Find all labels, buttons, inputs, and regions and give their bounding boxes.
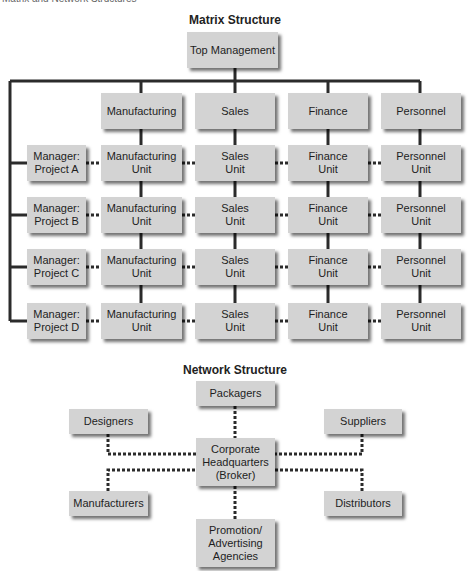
unit-sales: Sales Unit	[195, 303, 275, 339]
dept-label: Manufacturing	[107, 105, 177, 118]
unit-label: Personnel Unit	[396, 308, 446, 334]
node-label: Suppliers	[340, 415, 386, 428]
dept-label: Sales	[221, 105, 249, 118]
node-designers: Designers	[69, 409, 148, 434]
dept-label: Personnel	[396, 105, 446, 118]
matrix-title: Matrix Structure	[185, 13, 285, 27]
manager-label: Manager: Project B	[33, 202, 79, 228]
unit-sales: Sales Unit	[195, 249, 275, 285]
unit-label: Manufacturing Unit	[107, 150, 177, 176]
manager-project-a: Manager: Project A	[27, 145, 86, 181]
unit-label: Sales Unit	[221, 308, 249, 334]
unit-label: Personnel Unit	[396, 202, 446, 228]
manager-label: Manager: Project C	[33, 254, 79, 280]
node-label: Promotion/ Advertising Agencies	[208, 524, 262, 563]
unit-label: Personnel Unit	[396, 150, 446, 176]
dept-label: Finance	[308, 105, 347, 118]
dept-finance: Finance	[288, 93, 368, 129]
top-management-label: Top Management	[190, 44, 275, 57]
unit-manufacturing: Manufacturing Unit	[101, 145, 182, 181]
unit-manufacturing: Manufacturing Unit	[101, 249, 182, 285]
manager-label: Manager: Project D	[33, 308, 79, 334]
node-promotion-advertising: Promotion/ Advertising Agencies	[196, 519, 275, 567]
unit-finance: Finance Unit	[288, 303, 368, 339]
manager-project-d: Manager: Project D	[27, 303, 86, 339]
unit-label: Finance Unit	[308, 254, 347, 280]
dept-sales: Sales	[195, 93, 275, 129]
unit-manufacturing: Manufacturing Unit	[101, 197, 182, 233]
node-distributors: Distributors	[324, 491, 402, 516]
unit-label: Manufacturing Unit	[107, 308, 177, 334]
unit-sales: Sales Unit	[195, 197, 275, 233]
manager-project-c: Manager: Project C	[27, 249, 86, 285]
node-label: Designers	[84, 415, 134, 428]
top-management-box: Top Management	[187, 32, 278, 68]
unit-finance: Finance Unit	[288, 145, 368, 181]
network-title: Network Structure	[180, 363, 290, 377]
unit-finance: Finance Unit	[288, 197, 368, 233]
unit-personnel: Personnel Unit	[381, 249, 461, 285]
unit-label: Finance Unit	[308, 202, 347, 228]
unit-label: Sales Unit	[221, 202, 249, 228]
unit-label: Finance Unit	[308, 308, 347, 334]
node-suppliers: Suppliers	[324, 409, 402, 434]
node-label: Distributors	[335, 497, 391, 510]
unit-sales: Sales Unit	[195, 145, 275, 181]
dept-personnel: Personnel	[381, 93, 461, 129]
node-manufacturers: Manufacturers	[69, 491, 148, 516]
unit-personnel: Personnel Unit	[381, 197, 461, 233]
node-corporate-hq: Corporate Headquarters (Broker)	[196, 438, 275, 486]
unit-label: Manufacturing Unit	[107, 202, 177, 228]
node-label: Packagers	[210, 387, 262, 400]
manager-label: Manager: Project A	[33, 150, 79, 176]
dept-manufacturing: Manufacturing	[101, 93, 182, 129]
unit-label: Sales Unit	[221, 254, 249, 280]
unit-label: Sales Unit	[221, 150, 249, 176]
unit-manufacturing: Manufacturing Unit	[101, 303, 182, 339]
node-label: Corporate Headquarters (Broker)	[202, 443, 269, 482]
manager-project-b: Manager: Project B	[27, 197, 86, 233]
node-label: Manufacturers	[73, 497, 143, 510]
unit-personnel: Personnel Unit	[381, 303, 461, 339]
unit-finance: Finance Unit	[288, 249, 368, 285]
unit-label: Finance Unit	[308, 150, 347, 176]
unit-label: Manufacturing Unit	[107, 254, 177, 280]
unit-label: Personnel Unit	[396, 254, 446, 280]
unit-personnel: Personnel Unit	[381, 145, 461, 181]
node-packagers: Packagers	[196, 381, 275, 406]
